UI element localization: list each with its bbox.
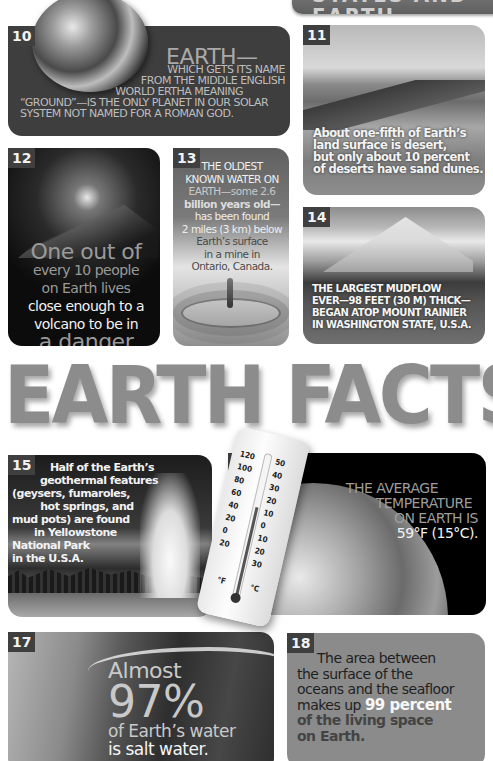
fact-number: 13: [173, 148, 200, 168]
banner-title: STATES AND EARTH: [292, 0, 493, 14]
fact-card-14: 14 THE LARGEST MUDFLOW EVER—98 FEET (30 …: [303, 207, 485, 344]
fact-highlight: 99 percent: [365, 696, 451, 714]
page-title: EARTH FACTS: [4, 348, 455, 444]
fact-line: hot springs, and: [12, 500, 162, 513]
fact-line: THE LARGEST MUDFLOW: [312, 283, 485, 295]
fact-line: KNOWN WATER ON: [177, 173, 287, 186]
mountain-image: [323, 217, 473, 272]
fact-line: mud pots) are found: [12, 513, 162, 526]
fact-line: of Earth’s water: [108, 722, 235, 740]
fact-line: a danger zone.: [16, 333, 156, 346]
tick-label: 30: [250, 557, 263, 572]
fact-number: 14: [303, 207, 330, 227]
fact-line: EARTH—some 2.6: [177, 185, 287, 198]
fact-text: WHICH GETS ITS NAME FROM THE MIDDLE ENGL…: [20, 64, 285, 119]
fact-line: of deserts have sand dunes.: [313, 163, 485, 175]
fact-line: One out of: [16, 243, 156, 261]
fact-text: THE AVERAGE TEMPERATURE ON EARTH IS 59°F…: [328, 481, 478, 541]
fact-line: National Park: [12, 539, 162, 552]
fact-line: in Yellowstone: [12, 526, 162, 539]
fact-number: 11: [303, 25, 330, 45]
fact-card-15: 15 Half of the Earth’s geothermal featur…: [8, 455, 212, 617]
fact-text: THE OLDEST KNOWN WATER ON EARTH—some 2.6…: [177, 160, 287, 273]
fact-line: the surface of the: [297, 667, 485, 683]
fact-line: of the living space: [297, 713, 485, 729]
tick-label: 20: [218, 536, 236, 552]
fact-line: ON EARTH IS: [328, 511, 478, 526]
fact-line: geothermal features: [12, 474, 162, 487]
fact-number: 15: [8, 455, 35, 475]
fact-line: IN WASHINGTON STATE, U.S.A.: [312, 319, 485, 331]
fact-line: The area between: [297, 651, 485, 667]
fact-line: (geysers, fumaroles,: [12, 487, 162, 500]
fact-line: billion years old—: [177, 198, 287, 211]
fact-percent: 97%: [108, 682, 235, 722]
fact-line: every 10 people: [16, 261, 156, 279]
fact-line: TEMPERATURE: [328, 496, 478, 511]
fact-number: 17: [8, 632, 35, 652]
fact-line: in a mine in: [177, 248, 287, 261]
fact-line: makes up: [297, 697, 361, 713]
desert-dunes-image: [303, 80, 485, 130]
fact-line: is salt water.: [108, 740, 235, 758]
fact-text: One out of every 10 people on Earth live…: [16, 243, 156, 346]
fact-card-13: 13 THE OLDEST KNOWN WATER ON EARTH—some …: [173, 148, 289, 346]
fact-line: on Earth lives: [16, 279, 156, 297]
fact-text: THE LARGEST MUDFLOW EVER—98 FEET (30 M) …: [312, 283, 485, 331]
fact-line: close enough to a: [16, 297, 156, 315]
section-banner: STATES AND EARTH: [292, 0, 493, 14]
water-droplet-image: [227, 278, 233, 308]
fact-card-17: 17 Almost 97% of Earth’s water is salt w…: [8, 632, 274, 761]
fact-text: About one-fifth of Earth’s land surface …: [313, 127, 485, 175]
fact-line: Earth’s surface: [177, 235, 287, 248]
fact-text: The area between the surface of the ocea…: [297, 651, 485, 744]
fact-line: EVER—98 FEET (30 M) THICK—: [312, 295, 485, 307]
fact-line: 59°F (15°C).: [328, 526, 478, 541]
fact-line: in the U.S.A.: [12, 552, 162, 565]
celsius-unit: °C: [249, 583, 260, 594]
fact-line: has been found: [177, 210, 287, 223]
fact-line: SYSTEM NOT NAMED FOR A ROMAN GOD.: [20, 108, 285, 119]
fact-text: Almost 97% of Earth’s water is salt wate…: [108, 660, 235, 758]
fact-line: THE AVERAGE: [328, 481, 478, 496]
fact-card-11: 11 About one-fifth of Earth’s land surfa…: [303, 25, 485, 195]
fact-number: 12: [8, 148, 35, 168]
fact-line: on Earth.: [297, 729, 485, 745]
fact-number: 18: [287, 633, 314, 653]
fact-number: 10: [8, 26, 35, 46]
fact-line: 2 miles (3 km) below: [177, 223, 287, 236]
fact-text: Half of the Earth’s geothermal features …: [12, 461, 162, 565]
fact-line: Ontario, Canada.: [177, 260, 287, 273]
fact-card-18: 18 The area between the surface of the o…: [287, 633, 485, 761]
fahrenheit-unit: °F: [216, 575, 226, 586]
fact-line: BEGAN ATOP MOUNT RAINIER: [312, 307, 485, 319]
fact-card-12: 12 One out of every 10 people on Earth l…: [8, 148, 160, 346]
